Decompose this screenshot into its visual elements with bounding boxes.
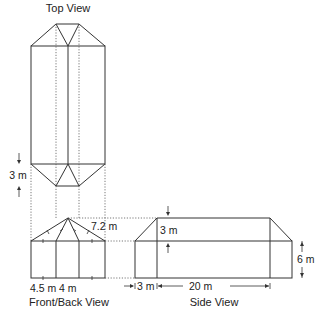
front-view-outer-bay-label: 4.5 m (30, 282, 57, 294)
side-view-title: Side View (190, 296, 239, 308)
front-view-walls (31, 241, 105, 278)
top-view-hip-valley-bottom (56, 164, 79, 186)
side-view-length-dimensions: 3 m 20 m (124, 280, 270, 292)
side-view-roof-rise-dimension: 3 m (160, 206, 178, 253)
top-view-hip-valley-top (56, 24, 79, 46)
greenhouse-orthographic-diagram: Top View 3 m (0, 0, 320, 316)
top-view-hip-dimension-label: 3 m (9, 169, 27, 181)
top-view-title: Top View (46, 2, 90, 14)
side-view: 3 m 6 m 3 m 20 m Side View (124, 206, 315, 308)
top-view-hip-dimension: 3 m (9, 153, 27, 197)
side-view-ridge-length-label: 20 m (189, 280, 213, 292)
top-view: Top View 3 m (9, 2, 105, 197)
top-view-hip-bottom (31, 164, 105, 186)
top-view-hip-top (31, 24, 105, 46)
front-view-rafter-dimension-label: 7.2 m (91, 220, 118, 232)
side-view-wall-height-dimension: 6 m (297, 241, 315, 278)
side-view-walls (135, 241, 292, 278)
front-view-tick-marks (43, 229, 92, 280)
front-view-title: Front/Back View (29, 296, 109, 308)
side-view-wall-height-label: 6 m (297, 253, 315, 265)
front-view-inner-bay-label: 4 m (59, 282, 77, 294)
side-view-roof (135, 218, 292, 241)
side-view-hip-run-label: 3 m (137, 280, 155, 292)
front-back-view: 7.2 m 4.5 m 4 m Front/Back View (29, 218, 117, 308)
side-view-roof-rise-label: 3 m (160, 224, 178, 236)
